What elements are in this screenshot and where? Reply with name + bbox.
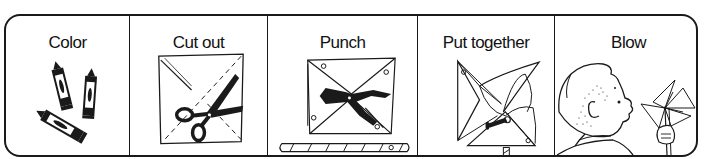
instruction-strip: Color [4, 14, 698, 157]
crayons-icon [6, 16, 129, 155]
hole-punch-icon [268, 16, 417, 155]
step-cut-out-panel: Cut out [130, 16, 268, 155]
scissors-icon [130, 16, 267, 155]
pinwheel-assembly-icon [418, 16, 554, 155]
step-put-together-panel: Put together [418, 16, 555, 155]
step-blow-panel: Blow [555, 16, 696, 155]
step-color-panel: Color [6, 16, 130, 155]
child-blowing-pinwheel-icon [555, 16, 696, 155]
step-punch-panel: Punch [268, 16, 418, 155]
